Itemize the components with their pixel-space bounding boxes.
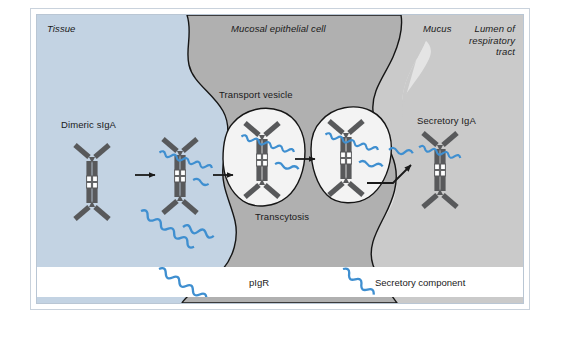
figure-caption xyxy=(36,330,506,339)
zone-label-mucosal-epithelial-cell: Mucosal epithelial cell xyxy=(231,23,326,35)
label-dimeric-siga: Dimeric sIgA xyxy=(61,119,116,131)
label-secretory-iga: Secretory IgA xyxy=(417,115,476,127)
legend-panel: pIgR Secretory component xyxy=(37,267,523,297)
zone-label-lumen-line3: tract xyxy=(433,46,515,58)
legend-label-secretory-component: Secretory component xyxy=(375,277,465,288)
diagram-canvas xyxy=(37,15,523,303)
label-transcytosis: Transcytosis xyxy=(255,211,309,223)
zone-label-lumen-line2: respiratory xyxy=(433,35,515,47)
zone-label-lumen-line1: Lumen of xyxy=(433,23,515,35)
label-transport-vesicle: Transport vesicle xyxy=(219,89,293,101)
legend-label-pigr: pIgR xyxy=(249,277,269,288)
secretory-component-icon-legend xyxy=(341,267,375,297)
figure-root: Tissue Mucosal epithelial cell Mucus Lum… xyxy=(0,0,561,340)
pigr-icon-legend xyxy=(157,267,208,297)
diagram-panel: Tissue Mucosal epithelial cell Mucus Lum… xyxy=(36,14,524,304)
zone-label-tissue: Tissue xyxy=(47,23,76,35)
